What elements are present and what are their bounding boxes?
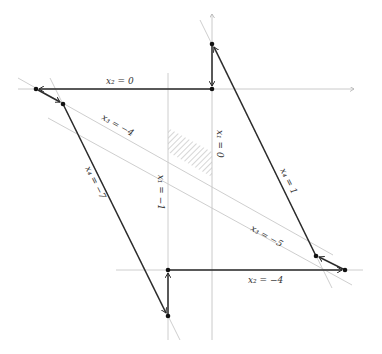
vertex-6 xyxy=(166,268,171,273)
vertex-1 xyxy=(210,42,215,47)
vertex-2 xyxy=(210,87,215,92)
line-x3-eq-m5 xyxy=(48,118,352,285)
label-x1-eq-0: x₁ = 0 xyxy=(215,130,225,158)
label-x3-eq-m5: x₃ = −5 xyxy=(249,223,285,249)
path-edge-7 xyxy=(319,257,345,270)
vertex-8 xyxy=(314,254,319,259)
label-x4-eq-m7: x₄ = −7 xyxy=(83,164,108,200)
simplex-diagram: x₂ = 0 x₂ = −4 x₁ = 0 x₁ = −1 x₃ = −4 x₃… xyxy=(0,0,382,354)
label-x2-eq-0: x₂ = 0 xyxy=(106,76,134,86)
vertex-4 xyxy=(61,102,66,107)
path-edge-8 xyxy=(214,47,316,256)
feasible-region xyxy=(168,128,212,177)
label-x2-eq-m4: x₂ = −4 xyxy=(248,275,283,285)
vertex-3 xyxy=(34,87,39,92)
vertex-5 xyxy=(166,314,171,319)
vertex-7 xyxy=(343,268,348,273)
label-x1-eq-m1: x₁ = −1 xyxy=(156,175,166,210)
path-edge-4 xyxy=(63,104,166,313)
label-x4-eq-1: x₄ = 1 xyxy=(278,166,299,195)
